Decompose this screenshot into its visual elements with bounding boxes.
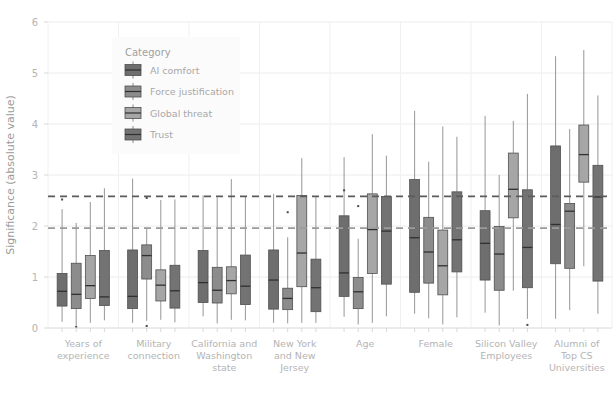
x-category-label: Jersey xyxy=(279,362,309,373)
outlier-point xyxy=(357,205,359,207)
outlier-point xyxy=(61,198,63,200)
x-category-label: Universities xyxy=(549,362,605,373)
y-tick-label: 4 xyxy=(32,119,38,130)
x-category-label: Female xyxy=(419,338,454,349)
box-7-force-justification xyxy=(494,227,504,291)
legend-label-2[interactable]: Force justification xyxy=(150,86,234,97)
chart-root: 0123456Significance (absolute value)Year… xyxy=(0,0,616,394)
y-tick-label: 3 xyxy=(32,170,38,181)
box-8-global-threat xyxy=(579,125,589,182)
x-category-label: California and xyxy=(191,338,257,349)
box-7-global-threat xyxy=(508,153,518,218)
box-6-global-threat xyxy=(438,230,448,295)
outlier-point xyxy=(287,211,289,213)
y-tick-label: 0 xyxy=(32,323,38,334)
legend-label-3[interactable]: Global threat xyxy=(150,108,212,119)
box-7-ai-comfort xyxy=(480,211,490,280)
boxplot-chart: 0123456Significance (absolute value)Year… xyxy=(0,0,616,394)
x-category-label: Top CS xyxy=(560,350,593,361)
y-axis-title: Significance (absolute value) xyxy=(4,95,17,254)
box-3-force-justification xyxy=(212,267,222,303)
box-1-force-justification xyxy=(71,263,81,308)
box-4-global-threat xyxy=(297,195,307,286)
box-2-ai-comfort xyxy=(128,250,138,309)
box-5-trust xyxy=(381,196,391,284)
box-8-force-justification xyxy=(565,204,575,269)
box-3-trust xyxy=(240,255,250,304)
outlier-point xyxy=(343,189,345,191)
legend-title: Category xyxy=(125,47,171,58)
box-6-trust xyxy=(452,192,462,272)
box-8-trust xyxy=(593,165,603,281)
outlier-point xyxy=(526,324,528,326)
box-4-trust xyxy=(311,259,321,312)
x-category-label: Years of xyxy=(64,338,103,349)
x-category-label: Age xyxy=(356,338,375,349)
x-category-label: state xyxy=(212,362,236,373)
box-3-ai-comfort xyxy=(198,250,208,302)
box-5-force-justification xyxy=(353,278,363,309)
y-tick-label: 5 xyxy=(32,68,38,79)
x-category-label: connection xyxy=(128,350,180,361)
box-1-ai-comfort xyxy=(57,273,67,306)
x-category-label: Employees xyxy=(480,350,532,361)
x-category-label: Washington xyxy=(196,350,252,361)
box-7-trust xyxy=(522,190,532,288)
y-tick-label: 2 xyxy=(32,221,38,232)
x-category-label: Silicon Valley xyxy=(475,338,538,349)
box-2-trust xyxy=(170,265,180,308)
x-category-label: Alumni of xyxy=(554,338,600,349)
x-category-label: and New xyxy=(274,350,316,361)
legend-label-1[interactable]: AI comfort xyxy=(150,65,200,76)
x-category-label: Military xyxy=(136,338,172,349)
legend-label-4[interactable]: Trust xyxy=(149,129,173,140)
box-2-force-justification xyxy=(142,245,152,279)
x-category-label: New York xyxy=(273,338,317,349)
box-5-global-threat xyxy=(367,194,377,274)
y-tick-label: 1 xyxy=(32,272,38,283)
box-8-ai-comfort xyxy=(551,146,561,264)
box-1-global-threat xyxy=(85,256,95,299)
y-tick-label: 6 xyxy=(32,17,38,28)
outlier-point xyxy=(146,325,148,327)
x-category-label: experience xyxy=(57,350,110,361)
